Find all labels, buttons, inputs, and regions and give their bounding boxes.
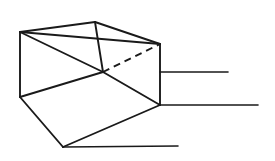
wireframe-box-drawing [0,0,275,161]
top-rear-left-edge [20,22,95,32]
inner-floor-diagonal [103,72,160,105]
inner-lower-left-edge [20,72,103,97]
front-bottom-edge [63,105,160,147]
figure-canvas [0,0,275,161]
box-solid-edges [20,22,160,147]
lower-projection-line [63,146,178,147]
inner-vertical-edge [95,22,103,72]
hidden-depth-edge [103,44,160,72]
front-left-edge [20,97,63,147]
box-hidden-edges [103,44,160,72]
